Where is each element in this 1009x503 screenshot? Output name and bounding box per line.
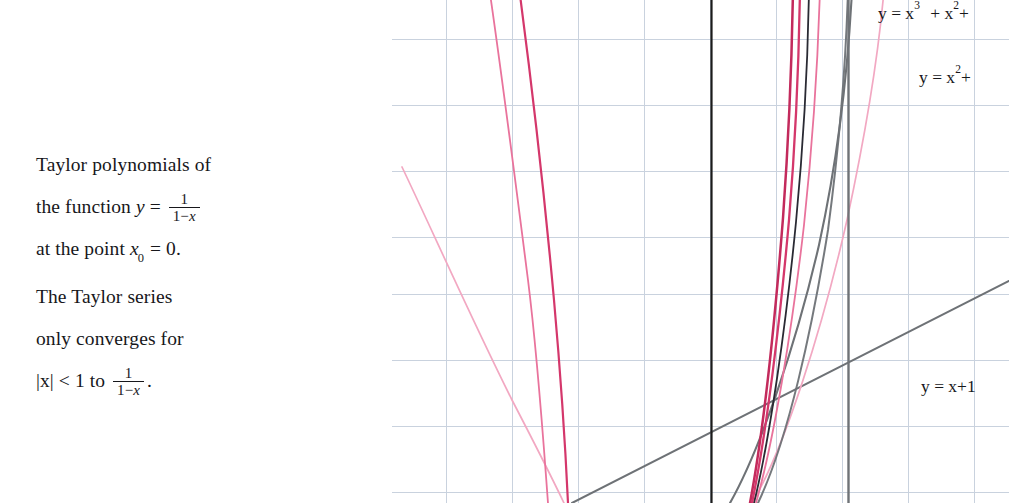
frac1-den-x: x xyxy=(189,208,196,224)
cubic-exponent-2: 2 xyxy=(953,0,959,11)
caption-p1-line-2: the function y = 1 1−x xyxy=(36,186,211,228)
curve-true-function xyxy=(758,0,848,503)
caption-p2-line-2: only converges for xyxy=(36,318,184,360)
curve-label-quadratic: y = x2+ xyxy=(919,66,971,88)
grid-lines xyxy=(392,0,1009,503)
p1-l3-subscript-zero: 0 xyxy=(138,251,144,265)
p1-l2-eq: = xyxy=(150,196,161,217)
caption-paragraph-1: Taylor polynomials of the function y = 1… xyxy=(36,144,211,277)
cubic-mid: + x xyxy=(930,3,953,23)
p1-l2-pre: the function xyxy=(36,196,131,217)
fraction-one-over-one-minus-x: 1 1−x xyxy=(169,191,200,225)
caption-p2-line-3: |x| < 1 to 1 1−x . xyxy=(36,360,184,402)
p1-l3-eq: = 0. xyxy=(150,238,181,259)
p1-l3-pre: at the point xyxy=(36,238,125,259)
p2-l3-period: . xyxy=(147,370,152,391)
curve-label-cubic: y = x3 + x2+ xyxy=(878,2,969,24)
fraction-one-over-one-minus-x-2: 1 1−x xyxy=(113,365,144,399)
caption-p1-line-3: at the point x0 = 0. xyxy=(36,228,211,277)
frac1-den-minus: − xyxy=(180,208,189,224)
frac1-denominator: 1−x xyxy=(169,207,200,225)
figure-canvas: y = x3 + x2+ y = x2+ y = x+1 Taylor poly… xyxy=(0,0,1009,503)
cubic-exponent-3: 3 xyxy=(914,0,920,11)
frac2-den-minus: − xyxy=(125,382,134,398)
curve-label-linear: y = x+1 xyxy=(921,376,976,397)
p1-l2-y: y xyxy=(136,196,145,217)
frac2-numerator: 1 xyxy=(113,365,144,381)
quad-exponent-2: 2 xyxy=(955,63,961,75)
taylor-polynomial-plot xyxy=(392,0,1009,503)
quad-tail: + xyxy=(961,67,971,87)
curve-degree-4-left xyxy=(488,0,548,503)
frac2-denominator: 1−x xyxy=(113,381,144,399)
caption-p1-line-1: Taylor polynomials of xyxy=(36,144,211,186)
curve-degree-2 xyxy=(402,167,564,503)
frac2-den-one: 1 xyxy=(117,382,125,398)
caption-p2-line-1: The Taylor series xyxy=(36,276,184,318)
plot-svg xyxy=(392,0,1009,503)
quad-lhs: y = x xyxy=(919,67,955,87)
frac2-den-x: x xyxy=(133,382,140,398)
frac1-numerator: 1 xyxy=(169,191,200,207)
caption-panel: Taylor polynomials of the function y = 1… xyxy=(0,0,392,503)
p2-l3-abs: |x| < 1 to xyxy=(36,370,105,391)
cubic-lhs: y = x xyxy=(878,3,914,23)
cubic-tail: + xyxy=(959,3,969,23)
caption-paragraph-2: The Taylor series only converges for |x|… xyxy=(36,276,184,402)
